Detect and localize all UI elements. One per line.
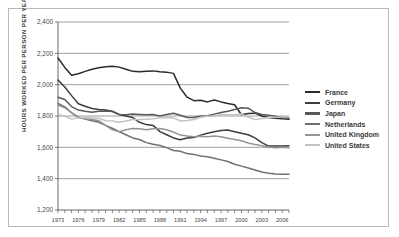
svg-text:1985: 1985	[133, 217, 145, 223]
legend-item-label: France	[325, 89, 348, 96]
svg-text:2,000: 2,000	[37, 81, 53, 88]
legend-item-netherlands[interactable]: Netherlands	[305, 119, 399, 130]
gridline-group	[55, 22, 289, 210]
figure-frame: HOURS WORKED PER PERSON PER YEAR 1,2001,…	[8, 8, 389, 227]
legend-item-label: Germany	[325, 99, 355, 106]
svg-text:2,400: 2,400	[37, 18, 53, 25]
legend-swatch-icon	[305, 123, 320, 125]
svg-text:2000: 2000	[235, 217, 247, 223]
legend-item-japan[interactable]: Japan	[305, 108, 399, 119]
legend-item-germany[interactable]: Germany	[305, 98, 399, 109]
svg-text:1973: 1973	[52, 217, 64, 223]
svg-text:1988: 1988	[154, 217, 166, 223]
legend-item-label: Japan	[325, 110, 345, 117]
svg-text:1994: 1994	[194, 217, 206, 223]
svg-text:2,200: 2,200	[37, 50, 53, 57]
y-tick-label-group: 1,2001,4001,6001,8002,0002,2002,400	[37, 18, 53, 213]
series-line-netherlands	[58, 103, 289, 174]
svg-text:1,200: 1,200	[37, 206, 53, 213]
x-tick-label-group: 1973197619791982198519881991199419972000…	[52, 217, 289, 223]
svg-text:2003: 2003	[256, 217, 268, 223]
series-line-france	[58, 58, 289, 119]
legend-swatch-icon	[305, 144, 320, 146]
legend-item-label: United States	[325, 142, 370, 149]
legend-item-label: United Kingdom	[325, 131, 379, 138]
svg-text:1979: 1979	[93, 217, 105, 223]
svg-text:1982: 1982	[113, 217, 125, 223]
svg-text:1991: 1991	[174, 217, 186, 223]
svg-text:1997: 1997	[215, 217, 227, 223]
svg-text:2006: 2006	[276, 217, 288, 223]
legend-item-united-states[interactable]: United States	[305, 140, 399, 151]
legend-swatch-icon	[305, 102, 320, 104]
chart-container: HOURS WORKED PER PERSON PER YEAR 1,2001,…	[9, 9, 390, 228]
svg-text:1976: 1976	[72, 217, 84, 223]
svg-text:1,800: 1,800	[37, 112, 53, 119]
legend-item-label: Netherlands	[325, 121, 365, 128]
svg-text:1,400: 1,400	[37, 175, 53, 182]
legend-swatch-icon	[305, 91, 320, 93]
legend-item-united-kingdom[interactable]: United Kingdom	[305, 129, 399, 140]
legend-item-france[interactable]: France	[305, 87, 399, 98]
series-line-japan	[58, 97, 289, 118]
legend-swatch-icon	[305, 112, 320, 114]
legend-swatch-icon	[305, 134, 320, 136]
svg-text:1,600: 1,600	[37, 144, 53, 151]
legend: FranceGermanyJapanNetherlandsUnited King…	[305, 87, 399, 151]
